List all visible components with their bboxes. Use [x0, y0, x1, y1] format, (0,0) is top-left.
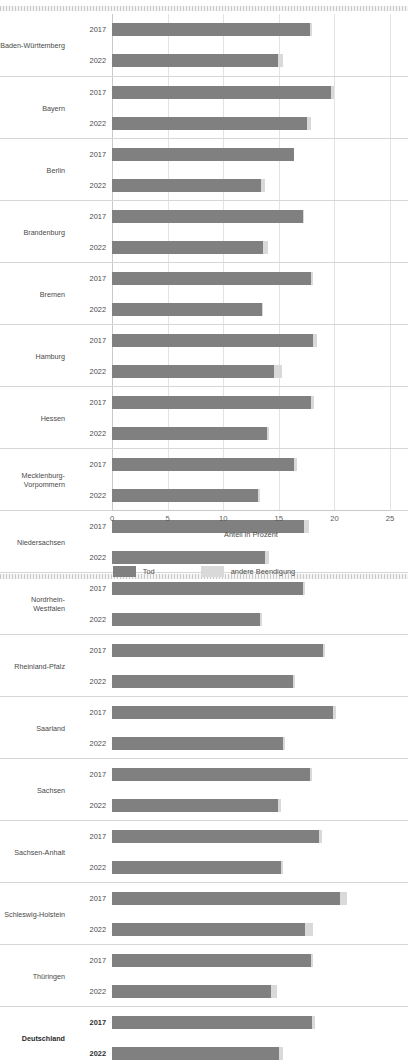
bar[interactable]	[112, 1016, 315, 1029]
bar-segment-tod[interactable]	[112, 830, 319, 843]
bar-segment-tod[interactable]	[112, 241, 263, 254]
bar-segment-tod[interactable]	[112, 272, 311, 285]
bar[interactable]	[112, 799, 281, 812]
bar-segment-tod[interactable]	[112, 303, 262, 316]
bar[interactable]	[112, 210, 304, 223]
stacked-bar[interactable]	[112, 759, 390, 790]
stacked-bar[interactable]	[112, 480, 390, 511]
bar[interactable]	[112, 954, 313, 967]
bar-segment-tod[interactable]	[112, 86, 331, 99]
bar-segment-andere-beendigung[interactable]	[262, 303, 263, 316]
bar[interactable]	[112, 365, 282, 378]
bar[interactable]	[112, 892, 347, 905]
stacked-bar[interactable]	[112, 201, 390, 232]
bar[interactable]	[112, 582, 305, 595]
stacked-bar[interactable]	[112, 1007, 390, 1038]
bar-segment-tod[interactable]	[112, 54, 278, 67]
stacked-bar[interactable]	[112, 325, 390, 356]
bar-segment-tod[interactable]	[112, 396, 311, 409]
bar-segment-tod[interactable]	[112, 892, 340, 905]
stacked-bar[interactable]	[112, 77, 390, 108]
bar-segment-tod[interactable]	[112, 954, 311, 967]
stacked-bar[interactable]	[112, 1038, 390, 1064]
bar-segment-andere-beendigung[interactable]	[307, 117, 311, 130]
stacked-bar[interactable]	[112, 976, 390, 1007]
bar[interactable]	[112, 179, 265, 192]
bar-segment-andere-beendigung[interactable]	[323, 644, 325, 657]
bar[interactable]	[112, 241, 268, 254]
stacked-bar[interactable]	[112, 821, 390, 852]
bar[interactable]	[112, 23, 312, 36]
bar-segment-tod[interactable]	[112, 427, 267, 440]
bar-segment-andere-beendigung[interactable]	[319, 830, 322, 843]
bar-segment-tod[interactable]	[112, 861, 281, 874]
stacked-bar[interactable]	[112, 387, 390, 418]
bar-segment-tod[interactable]	[112, 148, 294, 161]
bar-segment-tod[interactable]	[112, 179, 261, 192]
bar-segment-andere-beendigung[interactable]	[283, 737, 285, 750]
bar-segment-andere-beendigung[interactable]	[331, 86, 334, 99]
bar[interactable]	[112, 396, 314, 409]
legend-item[interactable]: andere Beendigung	[201, 566, 296, 577]
stacked-bar[interactable]	[112, 945, 390, 976]
bar-segment-andere-beendigung[interactable]	[267, 427, 269, 440]
bar[interactable]	[112, 86, 334, 99]
bar[interactable]	[112, 551, 269, 564]
bar-segment-andere-beendigung[interactable]	[279, 1047, 283, 1060]
bar[interactable]	[112, 923, 313, 936]
bar-segment-andere-beendigung[interactable]	[311, 272, 313, 285]
bar-segment-andere-beendigung[interactable]	[281, 861, 283, 874]
stacked-bar[interactable]	[112, 294, 390, 325]
bar-segment-andere-beendigung[interactable]	[258, 489, 260, 502]
bar-segment-andere-beendigung[interactable]	[263, 241, 267, 254]
bar-segment-tod[interactable]	[112, 768, 310, 781]
bar-segment-andere-beendigung[interactable]	[310, 768, 312, 781]
stacked-bar[interactable]	[112, 697, 390, 728]
stacked-bar[interactable]	[112, 914, 390, 945]
bar[interactable]	[112, 768, 312, 781]
bar[interactable]	[112, 861, 283, 874]
bar-segment-tod[interactable]	[112, 675, 293, 688]
stacked-bar[interactable]	[112, 14, 390, 45]
bar[interactable]	[112, 427, 269, 440]
bar-segment-tod[interactable]	[112, 923, 305, 936]
bar-segment-tod[interactable]	[112, 23, 310, 36]
stacked-bar[interactable]	[112, 45, 390, 76]
bar-segment-tod[interactable]	[112, 458, 294, 471]
legend-item[interactable]: Tod	[113, 566, 155, 577]
bar[interactable]	[112, 706, 336, 719]
bar-segment-andere-beendigung[interactable]	[293, 675, 295, 688]
bar[interactable]	[112, 644, 326, 657]
stacked-bar[interactable]	[112, 263, 390, 294]
bar[interactable]	[112, 1047, 283, 1060]
stacked-bar[interactable]	[112, 635, 390, 666]
bar-segment-tod[interactable]	[112, 706, 333, 719]
stacked-bar[interactable]	[112, 449, 390, 480]
bar-segment-tod[interactable]	[112, 582, 303, 595]
stacked-bar[interactable]	[112, 666, 390, 697]
bar-segment-tod[interactable]	[112, 117, 307, 130]
bar-segment-tod[interactable]	[112, 1047, 279, 1060]
bar[interactable]	[112, 54, 283, 67]
bar-segment-tod[interactable]	[112, 334, 313, 347]
bar-segment-andere-beendigung[interactable]	[311, 396, 314, 409]
bar[interactable]	[112, 303, 263, 316]
stacked-bar[interactable]	[112, 170, 390, 201]
bar-segment-andere-beendigung[interactable]	[261, 179, 265, 192]
bar-segment-tod[interactable]	[112, 489, 258, 502]
bar[interactable]	[112, 675, 295, 688]
bar[interactable]	[112, 334, 317, 347]
bar-segment-tod[interactable]	[112, 551, 265, 564]
stacked-bar[interactable]	[112, 356, 390, 387]
bar-segment-andere-beendigung[interactable]	[294, 458, 296, 471]
bar[interactable]	[112, 489, 260, 502]
bar-segment-tod[interactable]	[112, 799, 278, 812]
stacked-bar[interactable]	[112, 108, 390, 139]
stacked-bar[interactable]	[112, 883, 390, 914]
bar-segment-tod[interactable]	[112, 210, 303, 223]
stacked-bar[interactable]	[112, 139, 390, 170]
bar[interactable]	[112, 830, 322, 843]
bar-segment-tod[interactable]	[112, 985, 271, 998]
bar[interactable]	[112, 613, 262, 626]
stacked-bar[interactable]	[112, 604, 390, 635]
